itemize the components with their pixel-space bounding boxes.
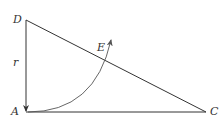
label-e: E [96,41,105,54]
label-d: D [12,13,22,26]
side-dc [26,20,206,112]
label-r: r [13,56,19,69]
label-a: A [10,105,19,118]
triangle-diagram: D A C E r [0,0,224,122]
label-c: C [210,105,219,118]
